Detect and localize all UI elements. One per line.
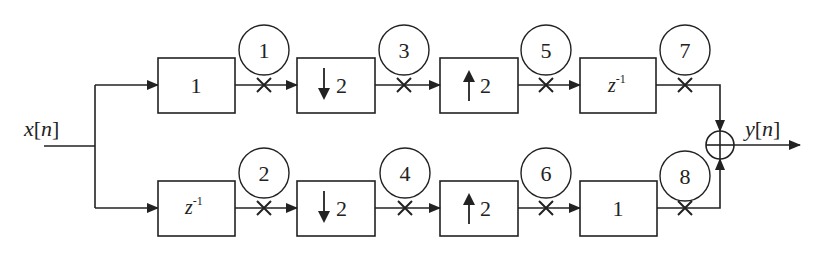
gain-label: 1 bbox=[191, 73, 202, 98]
probe-label-5: 5 bbox=[541, 38, 552, 63]
input-wires bbox=[44, 85, 158, 208]
probe-label-7: 7 bbox=[680, 38, 691, 63]
summer-plus-circle-icon bbox=[706, 131, 734, 159]
probe-label-3: 3 bbox=[399, 38, 410, 63]
output-label: y[n] bbox=[743, 116, 780, 141]
bottom-block-3 bbox=[440, 181, 518, 236]
gain-label: 1 bbox=[613, 196, 624, 221]
probe-label-2: 2 bbox=[259, 161, 270, 186]
probe-label-8: 8 bbox=[680, 164, 691, 189]
top-branch: 1 2 2 z-1 1 3 5 7 bbox=[158, 25, 720, 131]
diagram-canvas: x[n] 1 2 2 z-1 bbox=[0, 0, 821, 255]
downsample-factor: 2 bbox=[336, 73, 347, 98]
upsample-factor: 2 bbox=[480, 73, 491, 98]
downsample-factor: 2 bbox=[336, 196, 347, 221]
probe-label-6: 6 bbox=[541, 161, 552, 186]
probe-label-4: 4 bbox=[400, 161, 411, 186]
input-label: x[n] bbox=[23, 116, 59, 141]
probe-label-1: 1 bbox=[259, 38, 270, 63]
block-diagram: x[n] 1 2 2 z-1 bbox=[0, 0, 821, 255]
bottom-branch: z-1 2 2 1 2 4 6 8 bbox=[158, 148, 720, 236]
bottom-block-1 bbox=[158, 181, 235, 236]
top-block-3 bbox=[440, 58, 518, 113]
upsample-factor: 2 bbox=[480, 196, 491, 221]
